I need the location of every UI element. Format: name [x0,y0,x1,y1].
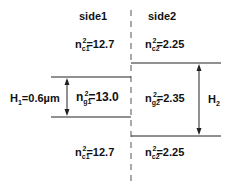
h1-label: H1=0.6µm [10,92,60,106]
h1-value: =0.6µm [22,92,60,104]
index-value: =12.7 [86,146,114,158]
bottom-cladding-right-index: nc22=2.25 [145,146,184,160]
index-symbol: n [145,146,152,158]
left-core-index: ng12=13.0 [76,91,119,105]
index-value: =2.25 [156,146,184,158]
h1-symbol: H [10,92,18,104]
h2-subscript: 2 [216,100,220,107]
index-symbol: n [145,92,152,104]
index-subscript: c1 [82,45,90,52]
index-subscript: g1 [83,98,91,105]
h1-dimension-arrow-icon [65,78,70,116]
index-value: =2.25 [156,38,184,50]
side2-header: side2 [148,10,176,22]
index-superscript: 2 [85,90,89,97]
index-value: =12.7 [86,38,114,50]
h2-dimension-arrow-icon [197,64,202,135]
index-superscript: 2 [153,145,157,152]
index-superscript: 2 [153,37,157,44]
index-symbol: n [75,146,82,158]
index-subscript: c1 [82,153,90,160]
index-value: =2.35 [157,92,185,104]
index-subscript: c2 [152,45,160,52]
side1-header: side1 [79,10,107,22]
index-subscript: c2 [152,153,160,160]
index-symbol: n [145,38,152,50]
top-cladding-left-index: nc12=12.7 [75,38,114,52]
bottom-cladding-left-index: nc12=12.7 [75,146,114,160]
index-superscript: 2 [153,91,157,98]
right-core-index: ng22=2.35 [145,92,185,106]
h2-label: H2 [208,93,220,107]
top-cladding-right-index: nc22=2.25 [145,38,184,52]
index-subscript: g2 [152,99,160,106]
h2-symbol: H [208,93,216,105]
index-superscript: 2 [83,145,87,152]
h1-subscript: 1 [18,99,22,106]
index-value: =13.0 [88,90,118,104]
index-symbol: n [75,38,82,50]
index-superscript: 2 [83,37,87,44]
